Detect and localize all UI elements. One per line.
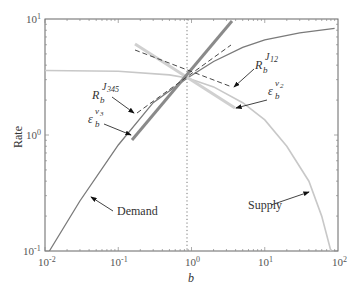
demand-curve	[49, 28, 334, 251]
svg-text:b: b	[95, 119, 100, 129]
svg-text:R: R	[254, 58, 263, 72]
x-tick-label: 100	[185, 255, 200, 268]
supply-label: Supply	[248, 198, 282, 212]
svg-text:3: 3	[99, 110, 104, 118]
x-axis-label: b	[188, 271, 194, 285]
svg-text:2: 2	[280, 82, 284, 90]
svg-text:R: R	[91, 88, 100, 102]
R-J12-arrow-icon	[234, 69, 254, 87]
y-tick-label: 101	[26, 12, 41, 25]
x-tick-labels: 10-2 10-1 100 101 102	[38, 255, 347, 268]
demand-arrow-icon	[91, 197, 113, 211]
x-tick-label: 102	[332, 255, 347, 268]
x-tick-label: 101	[258, 255, 273, 268]
y-tick-labels: 10-1 100 101	[23, 12, 41, 257]
svg-text:345: 345	[106, 85, 119, 94]
R-J345-label: R b J 345	[91, 81, 119, 105]
svg-text:b: b	[275, 91, 280, 101]
svg-text:12: 12	[270, 55, 278, 64]
demand-label: Demand	[117, 204, 158, 218]
eps-v3-arrow-icon	[104, 124, 131, 135]
supply-curve	[45, 71, 331, 252]
svg-text:ε: ε	[268, 84, 273, 98]
svg-text:b: b	[263, 65, 268, 75]
svg-text:b: b	[100, 95, 105, 105]
axis-ticks	[45, 19, 338, 251]
R-J345-arrow-icon	[112, 97, 134, 113]
R-J12-label: R b J 12	[254, 51, 278, 75]
demand-elasticity-tangent-line	[132, 21, 232, 140]
y-axis-label: Rate	[11, 126, 25, 148]
svg-text:ε: ε	[88, 112, 93, 126]
y-tick-label: 100	[26, 128, 41, 141]
x-tick-label: 10-1	[110, 255, 128, 268]
plot-frame	[45, 19, 338, 251]
x-tick-label: 10-2	[38, 255, 56, 268]
log-log-supply-demand-chart: 10-2 10-1 100 101 102 10-1 100 101 b Rat…	[0, 0, 358, 290]
eps-v3-label: ε b v 3	[88, 106, 104, 129]
svg-text:v: v	[95, 106, 99, 116]
eps-v2-label: ε b v 2	[268, 78, 284, 101]
svg-text:v: v	[275, 78, 279, 88]
